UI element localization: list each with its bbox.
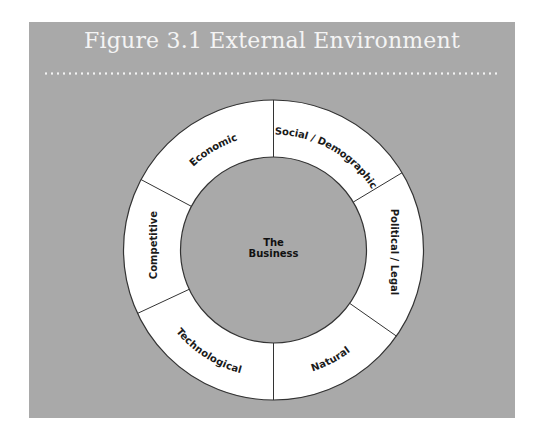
center-label-the: The [263,237,284,248]
segment-label-competitive: Competitive [148,211,159,280]
segment-label-political-legal: Political / Legal [389,209,400,295]
center-label-business: Business [249,248,299,259]
environment-ring-diagram: EconomicSocial / DemographicPolitical / … [0,0,544,436]
